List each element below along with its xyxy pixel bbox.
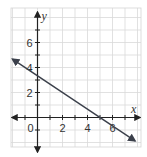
- x-tick-label: 0: [27, 122, 33, 134]
- x-tick-label: 2: [59, 122, 65, 134]
- x-tick-label: 4: [84, 122, 90, 134]
- coordinate-plane: 0246246 x y: [0, 0, 147, 157]
- y-tick-label: 2: [26, 87, 32, 99]
- y-axis-label: y: [41, 9, 48, 23]
- y-tick-label: 6: [26, 37, 32, 49]
- x-axis-label: x: [130, 102, 137, 116]
